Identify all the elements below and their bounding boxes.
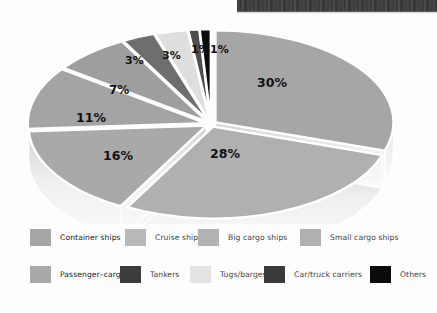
legend-item-label: Passenger–cargo xyxy=(60,270,125,279)
legend-item[interactable]: Car/truck carriers xyxy=(264,265,362,283)
legend-color-swatch xyxy=(190,266,211,283)
legend-color-swatch xyxy=(370,266,391,283)
legend-row: Container shipsCruise shipsBig cargo shi… xyxy=(0,228,437,250)
pie-percent-label: 3% xyxy=(162,50,181,61)
pie-percent-label: 3% xyxy=(125,55,144,66)
pie-percent-label: 1% xyxy=(210,44,229,55)
pie-chart-figure: Container ships 30%Cruise ships 28%Big c… xyxy=(0,0,437,313)
legend-item[interactable]: Container ships xyxy=(30,228,121,246)
pie-chart-plot-area: Container ships 30%Cruise ships 28%Big c… xyxy=(14,26,414,224)
legend-item-label: Others xyxy=(400,270,426,279)
legend-color-swatch xyxy=(120,266,141,283)
legend-item-label: Tugs/barges xyxy=(220,270,267,279)
legend-row: Passenger–cargoTankersTugs/bargesCar/tru… xyxy=(0,265,437,287)
legend-item[interactable]: Cruise ships xyxy=(125,228,202,246)
legend-item[interactable]: Tankers xyxy=(120,265,179,283)
legend-item-label: Container ships xyxy=(60,233,121,242)
legend-color-swatch xyxy=(300,229,321,246)
legend-item-label: Car/truck carriers xyxy=(294,270,362,279)
legend-item[interactable]: Others xyxy=(370,265,426,283)
legend-item-label: Tankers xyxy=(150,270,179,279)
pie-percent-label: 7% xyxy=(109,84,129,96)
legend-item-label: Small cargo ships xyxy=(330,233,399,242)
legend-color-swatch xyxy=(30,229,51,246)
legend-item-label: Big cargo ships xyxy=(228,233,287,242)
pie-percent-label: 16% xyxy=(103,150,133,163)
legend-color-swatch xyxy=(30,266,51,283)
pie-percent-label: 30% xyxy=(257,77,287,90)
pie-percent-label: 28% xyxy=(210,148,240,161)
legend-color-swatch xyxy=(264,266,285,283)
pie-percent-label: 11% xyxy=(76,112,106,125)
pie-slices-group: Container ships 30%Cruise ships 28%Big c… xyxy=(28,29,394,224)
scan-artifact-strip xyxy=(237,0,437,12)
legend-item[interactable]: Passenger–cargo xyxy=(30,265,125,283)
legend-color-swatch xyxy=(198,229,219,246)
legend-item-label: Cruise ships xyxy=(155,233,202,242)
legend-item[interactable]: Tugs/barges xyxy=(190,265,267,283)
legend-item[interactable]: Small cargo ships xyxy=(300,228,399,246)
chart-legend: Container shipsCruise shipsBig cargo shi… xyxy=(0,228,437,290)
legend-item[interactable]: Big cargo ships xyxy=(198,228,287,246)
pie-percent-label: 1% xyxy=(191,44,210,55)
legend-color-swatch xyxy=(125,229,146,246)
